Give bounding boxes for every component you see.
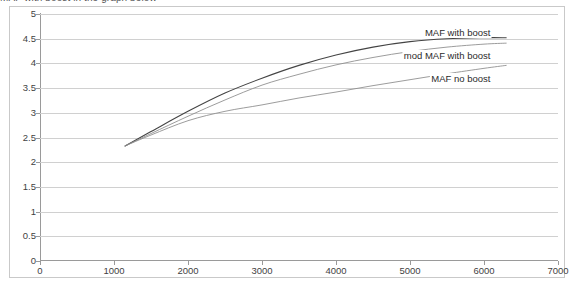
x-tick-label: 5000 xyxy=(385,266,435,276)
x-tick-label: 7000 xyxy=(533,266,574,276)
y-tick-mark xyxy=(36,138,40,139)
series-label: MAF with boost xyxy=(424,27,491,38)
x-tick-label: 0 xyxy=(15,266,65,276)
series-label: MAF no boost xyxy=(430,73,491,84)
chart-container: MAF with boost in the graph below 00.511… xyxy=(0,0,574,284)
y-tick-mark xyxy=(36,162,40,163)
y-tick-mark xyxy=(36,88,40,89)
y-tick-mark xyxy=(36,39,40,40)
y-tick-mark xyxy=(36,236,40,237)
y-tick-mark xyxy=(36,14,40,15)
series-curves xyxy=(0,0,574,284)
y-tick-mark xyxy=(36,63,40,64)
x-tick-label: 2000 xyxy=(163,266,213,276)
y-tick-mark xyxy=(36,113,40,114)
y-tick-mark xyxy=(36,187,40,188)
series-label: mod MAF with boost xyxy=(403,50,492,61)
x-tick-label: 6000 xyxy=(459,266,509,276)
x-tick-label: 1000 xyxy=(89,266,139,276)
x-tick-label: 3000 xyxy=(237,266,287,276)
x-tick-label: 4000 xyxy=(311,266,361,276)
y-tick-mark xyxy=(36,212,40,213)
